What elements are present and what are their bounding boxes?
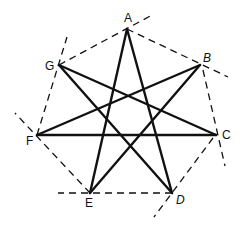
heptagram-star-lines (37, 29, 216, 193)
star-edge-bf (37, 65, 200, 135)
dashed-side-fg (37, 37, 67, 135)
vertex-label-e: E (85, 196, 93, 210)
vertex-labels: ABCDEFG (26, 11, 231, 210)
vertex-label-g: G (45, 59, 54, 73)
dashed-side-bc (203, 70, 225, 166)
dashed-side-ab (127, 29, 228, 77)
dashed-side-ga (59, 14, 154, 65)
dashed-side-ef (15, 113, 90, 193)
vertex-label-b: B (203, 51, 211, 65)
vertex-label-a: A (124, 11, 132, 25)
vertex-label-c: C (222, 128, 231, 142)
vertex-label-f: F (26, 134, 33, 148)
star-edge-be (90, 65, 200, 193)
dashed-heptagon-sides (15, 14, 228, 217)
heptagram-diagram: ABCDEFG (0, 0, 242, 228)
vertex-label-d: D (176, 193, 185, 207)
